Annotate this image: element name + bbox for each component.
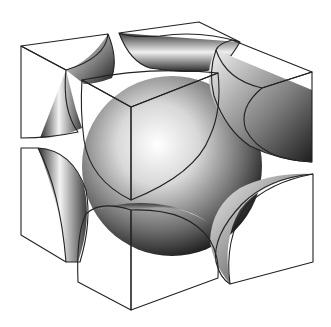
corner-left-bottom [21, 148, 88, 262]
diagram-canvas [0, 0, 331, 327]
bcc-unit-cell-diagram: Body-centered cubic unit cell [0, 0, 331, 327]
